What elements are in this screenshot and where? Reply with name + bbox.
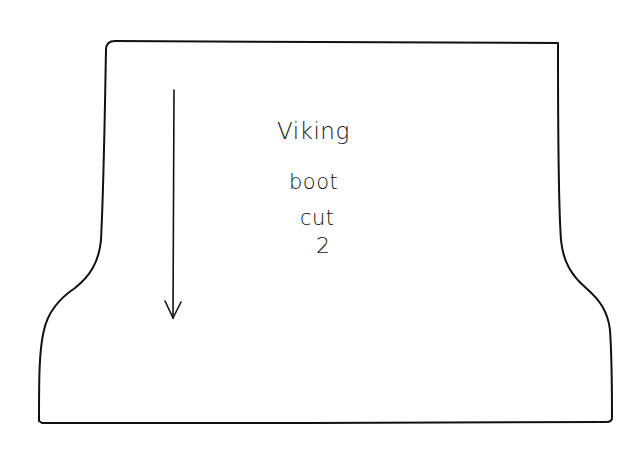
pattern-label-subtitle: boot: [289, 170, 338, 194]
pattern-label-title: Viking: [277, 118, 350, 144]
pattern-label-instruction: cut: [300, 206, 335, 230]
grainline-arrow-icon: [165, 90, 181, 318]
pattern-outline: [39, 41, 612, 423]
pattern-label-quantity: 2: [316, 233, 331, 258]
